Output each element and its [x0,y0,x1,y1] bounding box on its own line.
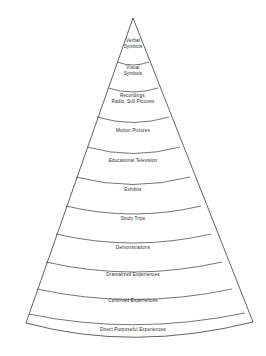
cone-outline [26,18,253,337]
cone-of-experience-figure: Verbal Symbols Visual Symbols Recordings… [0,0,266,356]
cone-diagram [0,0,266,356]
